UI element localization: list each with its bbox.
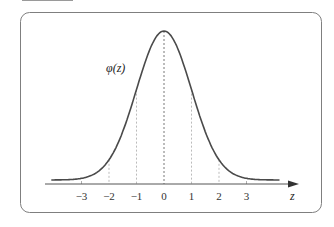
x-tick-label: −1 [131,190,143,202]
x-tick-label: −2 [103,190,115,202]
x-tick-label: 2 [216,190,222,202]
x-tick-label: 0 [161,190,167,202]
x-axis-label: z [289,189,295,203]
x-tick-label: 1 [189,190,195,202]
curve-label: φ(z) [106,61,125,75]
x-tick-label: 3 [244,190,250,202]
x-tick-label: −3 [76,190,88,202]
chart-frame [21,13,322,213]
normal-density-chart: −3−2−10123 z φ(z) [0,0,334,227]
